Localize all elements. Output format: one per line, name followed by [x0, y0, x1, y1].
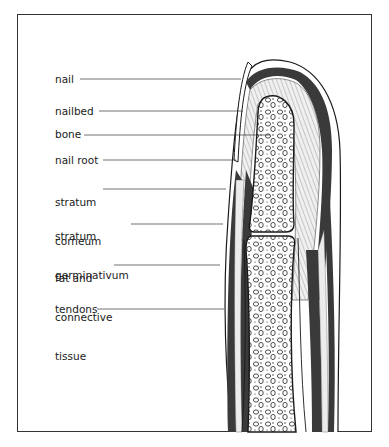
label-tendons: tendons — [55, 303, 97, 316]
label-stratum-germinativum-line1: stratum — [55, 230, 129, 243]
label-nail-root: nail root — [55, 154, 98, 167]
label-nail: nail — [55, 73, 74, 86]
label-bone: bone — [55, 128, 81, 141]
label-fat-connective-tissue-line1: fat and — [55, 272, 112, 285]
label-fat-connective-tissue-line3: tissue — [55, 350, 112, 363]
label-nailbed: nailbed — [55, 105, 94, 118]
middle-phalanx — [246, 236, 296, 432]
